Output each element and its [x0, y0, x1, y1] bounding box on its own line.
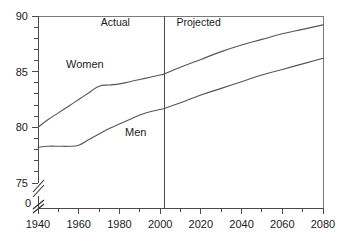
x-tick-label: 1940 [26, 218, 50, 230]
y-tick-label: 75 [16, 177, 28, 189]
series-line-men [38, 58, 323, 147]
series-label-men: Men [125, 126, 146, 138]
x-tick-label: 1960 [66, 218, 90, 230]
data-series-group [38, 25, 323, 147]
y-tick-labels: 75808590 [16, 10, 28, 189]
actual-label: Actual [101, 16, 130, 28]
y-tick-label: 85 [16, 66, 28, 78]
projected-label: Projected [176, 16, 221, 28]
y-tick-label: 90 [16, 10, 28, 22]
series-label-women: Women [66, 58, 104, 70]
x-tick-label: 2060 [270, 218, 294, 230]
x-tick-label: 2000 [148, 218, 172, 230]
y-axis-zero-label: 0 [25, 197, 31, 209]
y-tick-marks [32, 16, 38, 183]
x-tick-label: 2020 [189, 218, 213, 230]
x-tick-label: 1980 [107, 218, 131, 230]
x-tick-labels: 19401960198020002020204020602080 [26, 218, 335, 230]
x-tick-label: 2080 [311, 218, 335, 230]
series-line-women [38, 25, 323, 127]
x-tick-label: 2040 [229, 218, 253, 230]
life-expectancy-line-chart: 75808590 1940196019802000202020402060208… [0, 0, 352, 245]
x-tick-marks [38, 208, 323, 214]
chart-container: 75808590 1940196019802000202020402060208… [0, 0, 352, 245]
plot-frame [38, 16, 323, 208]
y-tick-label: 80 [16, 121, 28, 133]
